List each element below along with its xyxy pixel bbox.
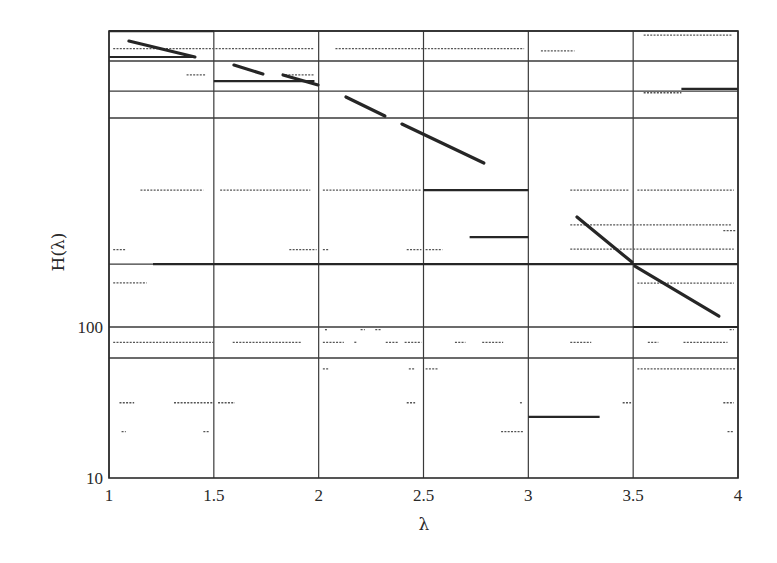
decreasing-segments-segment [283, 75, 318, 85]
x-axis-title: λ [419, 514, 430, 534]
x-tick-label: 3 [524, 486, 533, 505]
decreasing-segments-segment [129, 41, 195, 57]
y-axis-title: H(λ) [48, 233, 68, 272]
x-tick-label: 1 [105, 486, 114, 505]
x-tick-label: 2.5 [413, 486, 434, 505]
decreasing-segments-segment [234, 65, 263, 74]
y-axis-ticks: 10100 [78, 318, 104, 488]
x-tick-label: 4 [734, 486, 743, 505]
x-tick-label: 3.5 [623, 486, 644, 505]
decreasing-segments-segment [635, 266, 719, 316]
y-tick-label: 100 [78, 318, 104, 337]
x-axis-ticks: 11.522.533.54 [105, 486, 743, 505]
chart: 11.522.533.54 10100 λ H(λ) [0, 0, 777, 563]
x-tick-label: 2 [314, 486, 323, 505]
decreasing-segments-segment [577, 217, 632, 262]
y-tick-label: 10 [86, 469, 103, 488]
gridlines [109, 31, 738, 478]
x-tick-label: 1.5 [203, 486, 224, 505]
decreasing-segments-segment [402, 124, 484, 163]
decreasing-segments-segment [346, 97, 385, 116]
sparse-point-series [113, 35, 736, 432]
